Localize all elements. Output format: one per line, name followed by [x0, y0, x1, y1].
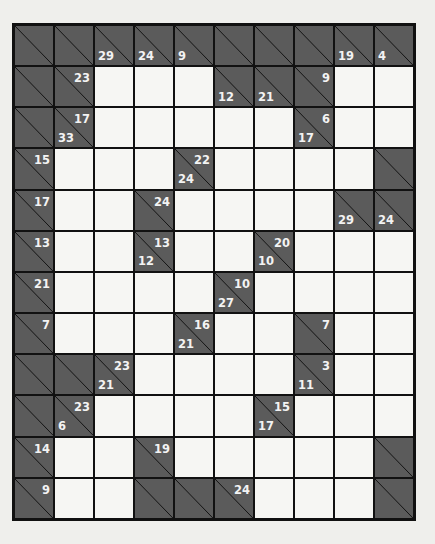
entry-cell[interactable] [254, 107, 294, 148]
entry-cell[interactable] [174, 107, 214, 148]
entry-cell[interactable] [94, 231, 134, 272]
entry-cell[interactable] [374, 313, 414, 354]
entry-cell[interactable] [214, 354, 254, 395]
clue-cell: 9 [294, 66, 334, 107]
clue-cell: 2224 [174, 148, 214, 189]
entry-cell[interactable] [254, 354, 294, 395]
entry-cell[interactable] [334, 231, 374, 272]
entry-cell[interactable] [334, 148, 374, 189]
entry-cell[interactable] [134, 107, 174, 148]
entry-cell[interactable] [294, 148, 334, 189]
entry-cell[interactable] [54, 190, 94, 231]
entry-cell[interactable] [174, 272, 214, 313]
entry-cell[interactable] [294, 272, 334, 313]
clue-cell: 1027 [214, 272, 254, 313]
down-clue: 27 [218, 298, 234, 310]
down-clue: 6 [58, 421, 66, 433]
entry-cell[interactable] [334, 66, 374, 107]
diagonal-divider-icon [55, 355, 93, 394]
across-clue: 9 [42, 485, 50, 497]
entry-cell[interactable] [54, 478, 94, 519]
entry-cell[interactable] [174, 66, 214, 107]
entry-cell[interactable] [134, 66, 174, 107]
entry-cell[interactable] [94, 148, 134, 189]
across-clue: 9 [322, 73, 330, 85]
entry-cell[interactable] [94, 272, 134, 313]
down-clue: 9 [178, 51, 186, 63]
entry-cell[interactable] [134, 313, 174, 354]
entry-cell[interactable] [254, 272, 294, 313]
entry-cell[interactable] [214, 190, 254, 231]
clue-cell: 15 [14, 148, 54, 189]
entry-cell[interactable] [174, 395, 214, 436]
down-clue: 33 [58, 133, 74, 145]
entry-cell[interactable] [54, 231, 94, 272]
entry-cell[interactable] [214, 313, 254, 354]
entry-cell[interactable] [94, 190, 134, 231]
entry-cell[interactable] [334, 354, 374, 395]
entry-cell[interactable] [334, 107, 374, 148]
entry-cell[interactable] [334, 437, 374, 478]
entry-cell[interactable] [54, 437, 94, 478]
entry-cell[interactable] [254, 148, 294, 189]
down-clue: 21 [178, 339, 194, 351]
entry-cell[interactable] [294, 231, 334, 272]
entry-cell[interactable] [94, 437, 134, 478]
entry-cell[interactable] [294, 478, 334, 519]
entry-cell[interactable] [134, 354, 174, 395]
entry-cell[interactable] [254, 190, 294, 231]
entry-cell[interactable] [94, 107, 134, 148]
entry-cell[interactable] [174, 190, 214, 231]
entry-cell[interactable] [134, 395, 174, 436]
entry-cell[interactable] [174, 231, 214, 272]
blocked-cell [14, 25, 54, 66]
entry-cell[interactable] [94, 313, 134, 354]
entry-cell[interactable] [374, 231, 414, 272]
clue-cell: 1621 [174, 313, 214, 354]
clue-cell: 4 [374, 25, 414, 66]
entry-cell[interactable] [134, 148, 174, 189]
entry-cell[interactable] [94, 395, 134, 436]
entry-cell[interactable] [334, 313, 374, 354]
diagonal-divider-icon [375, 479, 413, 518]
entry-cell[interactable] [254, 313, 294, 354]
down-clue: 19 [338, 51, 354, 63]
entry-cell[interactable] [134, 272, 174, 313]
across-clue: 22 [194, 155, 210, 167]
down-clue: 24 [138, 51, 154, 63]
entry-cell[interactable] [214, 107, 254, 148]
diagonal-divider-icon [375, 438, 413, 477]
entry-cell[interactable] [54, 313, 94, 354]
across-clue: 23 [74, 73, 90, 85]
entry-cell[interactable] [214, 231, 254, 272]
entry-cell[interactable] [374, 107, 414, 148]
clue-cell: 2010 [254, 231, 294, 272]
entry-cell[interactable] [214, 437, 254, 478]
blocked-cell [374, 437, 414, 478]
entry-cell[interactable] [54, 148, 94, 189]
entry-cell[interactable] [174, 437, 214, 478]
entry-cell[interactable] [94, 66, 134, 107]
entry-cell[interactable] [294, 437, 334, 478]
diagonal-divider-icon [15, 355, 53, 394]
entry-cell[interactable] [374, 395, 414, 436]
entry-cell[interactable] [214, 395, 254, 436]
entry-cell[interactable] [294, 395, 334, 436]
diagonal-divider-icon [135, 479, 173, 518]
entry-cell[interactable] [334, 395, 374, 436]
entry-cell[interactable] [254, 478, 294, 519]
entry-cell[interactable] [334, 478, 374, 519]
clue-cell: 7 [14, 313, 54, 354]
entry-cell[interactable] [94, 478, 134, 519]
entry-cell[interactable] [374, 66, 414, 107]
entry-cell[interactable] [374, 272, 414, 313]
entry-cell[interactable] [54, 272, 94, 313]
entry-cell[interactable] [254, 437, 294, 478]
down-clue: 4 [378, 51, 386, 63]
entry-cell[interactable] [294, 190, 334, 231]
entry-cell[interactable] [374, 354, 414, 395]
entry-cell[interactable] [334, 272, 374, 313]
entry-cell[interactable] [214, 148, 254, 189]
entry-cell[interactable] [174, 354, 214, 395]
across-clue: 6 [322, 114, 330, 126]
